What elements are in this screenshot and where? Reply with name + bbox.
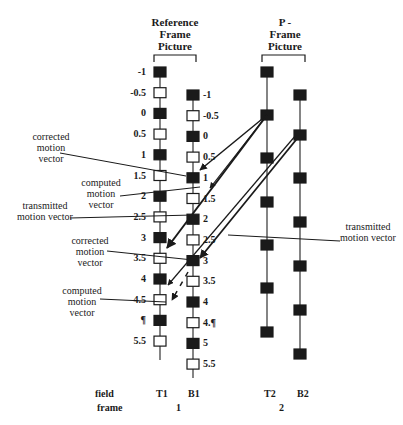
empty-field-box-t1: [154, 212, 166, 222]
filled-field-box-t1: [154, 233, 166, 243]
t1-position-label: -0.5: [130, 88, 146, 98]
note-computed-motion-vector-2: computedmotionvector: [62, 285, 102, 318]
filled-field-box-b1: [187, 173, 199, 183]
t1-position-label: 4.5: [134, 295, 147, 305]
b1-position-label: 1: [203, 173, 208, 183]
empty-field-box-t1: [154, 295, 166, 305]
filled-field-box-t2: [261, 67, 273, 77]
empty-field-box-t1: [154, 129, 166, 139]
leader-corrected-2: [107, 251, 193, 260]
filled-field-box-b2: [294, 305, 306, 315]
leader-transmitted-1: [70, 215, 193, 218]
arrow-dashed-to-t1-4-5: [172, 272, 188, 300]
filled-field-box-b1: [187, 297, 199, 307]
note-corrected-motion-vector-2: correctedmotionvector: [70, 235, 110, 268]
filled-field-box-t1: [154, 108, 166, 118]
t1-position-label: 2: [141, 191, 146, 201]
note-transmitted-motion-vector-1: transmittedmotion vector: [17, 200, 73, 222]
empty-field-box-b1: [187, 276, 199, 286]
b1-position-label: 4.¶: [203, 318, 216, 328]
empty-field-box-b1: [187, 194, 199, 204]
field-t1: T1: [156, 388, 168, 399]
b1-position-label: 0: [203, 131, 208, 141]
filled-field-box-t1: [154, 67, 166, 77]
t1-position-label: ¶: [141, 315, 146, 325]
filled-field-box-t1: [154, 315, 166, 325]
pframe-bracket: [262, 55, 305, 62]
b1-position-label: 3.5: [203, 276, 216, 286]
field-b2: B2: [297, 388, 309, 399]
b1-position-label: 0.5: [203, 152, 216, 162]
filled-field-box-t1: [154, 191, 166, 201]
empty-field-box-b1: [187, 359, 199, 369]
empty-field-box-b1: [187, 152, 199, 162]
filled-field-box-b1: [187, 338, 199, 348]
t1-position-label: 0: [141, 108, 146, 118]
t1-position-label: 3.5: [134, 253, 147, 263]
b1-position-label: -0.5: [203, 111, 219, 121]
note-corrected-motion-vector-1: correctedmotionvector: [18, 131, 84, 164]
filled-field-box-t2: [261, 153, 273, 163]
empty-field-box-t1: [154, 88, 166, 98]
leader-transmitted-2: [228, 235, 340, 241]
b1-position-label: 5: [203, 338, 208, 348]
filled-field-box-t1: [154, 274, 166, 284]
reference-frame-header: Reference Frame Picture: [135, 16, 215, 52]
field-row-label: field: [95, 388, 114, 399]
filled-field-box-b2: [294, 261, 306, 271]
filled-field-box-t2: [261, 327, 273, 337]
reference-bracket: [154, 55, 196, 62]
t1-position-label: 1: [141, 150, 146, 160]
filled-field-box-b2: [294, 173, 306, 183]
note-computed-motion-vector-1: computedmotionvector: [80, 177, 122, 210]
filled-field-box-b1: [187, 90, 199, 100]
empty-field-box-t1: [154, 336, 166, 346]
field-t2: T2: [264, 388, 276, 399]
t1-position-label: 1.5: [134, 171, 147, 181]
t1-position-label: 5.5: [134, 336, 147, 346]
t1-position-label: 4: [141, 274, 146, 284]
b1-position-label: -1: [203, 90, 211, 100]
b1-position-label: 4: [203, 297, 208, 307]
pframe-header: P - Frame Picture: [245, 16, 325, 52]
t1-position-label: -1: [138, 67, 146, 77]
frame-2: 2: [279, 402, 284, 413]
filled-field-box-b2: [294, 349, 306, 359]
b1-position-label: 2: [203, 214, 208, 224]
t1-position-label: 3: [141, 233, 146, 243]
filled-field-box-t2: [261, 240, 273, 250]
t1-position-label: 2.5: [134, 212, 147, 222]
field-b1: B1: [188, 388, 200, 399]
filled-field-box-t2: [261, 197, 273, 207]
frame-row-label: frame: [97, 402, 123, 413]
empty-field-box-b1: [187, 318, 199, 328]
empty-field-box-b1: [187, 111, 199, 121]
t1-position-label: 0.5: [134, 129, 147, 139]
b1-position-label: 5.5: [203, 359, 216, 369]
empty-field-box-t1: [154, 253, 166, 263]
filled-field-box-b2: [294, 90, 306, 100]
filled-field-box-b2: [294, 217, 306, 227]
filled-field-box-b1: [187, 131, 199, 141]
filled-field-box-t2: [261, 283, 273, 293]
frame-1: 1: [176, 402, 181, 413]
filled-field-box-t1: [154, 150, 166, 160]
b1-position-label: 1.5: [203, 194, 216, 204]
empty-field-box-b1: [187, 235, 199, 245]
b1-position-label: 3: [203, 256, 208, 266]
b1-position-label: 2.5: [203, 235, 216, 245]
note-transmitted-motion-vector-2: transmittedmotion vector: [340, 221, 396, 243]
